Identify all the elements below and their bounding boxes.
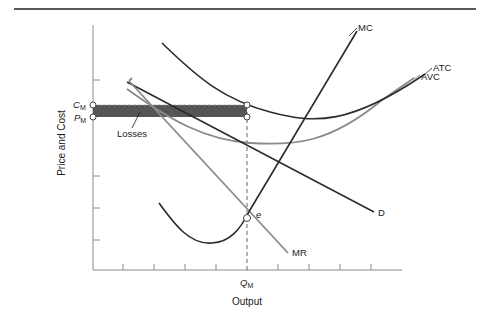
qm-label: QM bbox=[240, 277, 253, 289]
mr-label: MR bbox=[292, 247, 307, 258]
y-axis-title: Price and Cost bbox=[56, 110, 67, 176]
avc-label: AVC bbox=[421, 71, 440, 82]
x-axis-title: Output bbox=[232, 296, 262, 307]
cm-label: CM bbox=[73, 99, 86, 111]
point-cm-axis bbox=[90, 102, 96, 108]
point-e bbox=[244, 215, 251, 222]
mr-upper bbox=[129, 78, 132, 81]
d-label: D bbox=[378, 207, 385, 218]
point-d-qm bbox=[244, 114, 250, 120]
monopoly-loss-diagram: MC ATC AVC D MR e Losses CM PM QM Output… bbox=[0, 0, 481, 334]
pm-label: PM bbox=[74, 112, 86, 124]
point-atc-qm bbox=[244, 102, 250, 108]
axes bbox=[93, 25, 402, 270]
losses-label: Losses bbox=[117, 128, 147, 139]
e-label: e bbox=[256, 209, 261, 220]
demand-curve bbox=[127, 82, 374, 212]
losses-area bbox=[93, 105, 247, 117]
point-pm-axis bbox=[90, 114, 96, 120]
mc-label: MC bbox=[358, 22, 373, 33]
